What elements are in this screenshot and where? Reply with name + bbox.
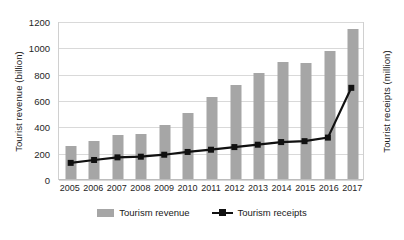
bar-swatch-icon (97, 209, 114, 217)
x-axis-tick-label: 2016 (319, 183, 339, 193)
x-axis-tick-label: 2010 (177, 183, 197, 193)
x-axis-tick-label: 2017 (342, 183, 362, 193)
line-series-tourism-receipts (59, 22, 363, 180)
x-axis-tick-label: 2008 (130, 183, 150, 193)
x-axis-tick-label: 2007 (107, 183, 127, 193)
line-marker (208, 147, 214, 153)
line-marker (91, 157, 97, 163)
line-marker-swatch-icon (212, 209, 233, 217)
x-axis-tick-label: 2015 (295, 183, 315, 193)
line-marker (138, 154, 144, 160)
line-marker (185, 149, 191, 155)
chart-legend: Tourism revenue Tourism receipts (0, 207, 404, 218)
y-axis-right-title: Tourist receipts (million) (381, 22, 392, 182)
line-marker (325, 135, 331, 141)
x-axis-baseline (59, 179, 363, 180)
y-axis-left-ticks: 020040060080010001200 (20, 22, 54, 180)
tourism-chart-figure: Tourist revenue (billion) Tourist receip… (0, 0, 404, 240)
x-axis-tick-label: 2009 (154, 183, 174, 193)
x-axis-tick-label: 2005 (60, 183, 80, 193)
legend-item-tourism-receipts[interactable]: Tourism receipts (212, 207, 307, 218)
line-marker (114, 154, 120, 160)
y-axis-tick-label: 800 (34, 69, 50, 80)
y-axis-tick-label: 1200 (29, 17, 50, 28)
legend-label-tourism-revenue: Tourism revenue (119, 207, 189, 218)
line-marker (161, 152, 167, 158)
y-axis-tick-label: 200 (34, 148, 50, 159)
legend-label-tourism-receipts: Tourism receipts (238, 207, 307, 218)
y-axis-tick-label: 600 (34, 96, 50, 107)
y-axis-tick-label: 1000 (29, 43, 50, 54)
gridline (59, 180, 363, 181)
line-marker (255, 142, 261, 148)
line-marker (302, 138, 308, 144)
y-axis-tick-label: 400 (34, 122, 50, 133)
line-marker (68, 160, 74, 166)
legend-item-tourism-revenue[interactable]: Tourism revenue (97, 207, 189, 218)
line-marker (278, 139, 284, 145)
x-axis-tick-label: 2014 (272, 183, 292, 193)
x-axis-tick-label: 2013 (248, 183, 268, 193)
x-axis-tick-label: 2012 (225, 183, 245, 193)
plot-area (58, 22, 364, 180)
x-axis-ticks: 2005200620072008200920102011201220132014… (58, 183, 364, 199)
line-marker (348, 85, 354, 91)
y-axis-tick-label: 0 (45, 175, 50, 186)
x-axis-tick-label: 2006 (83, 183, 103, 193)
x-axis-tick-label: 2011 (201, 183, 220, 193)
line-marker (231, 144, 237, 150)
